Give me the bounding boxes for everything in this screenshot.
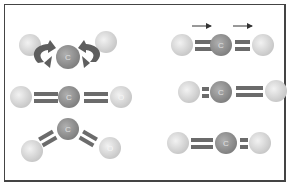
co2-diagram: C C O C O C — [0, 0, 294, 191]
panel-linear-double-bonds: C O — [10, 86, 132, 108]
oxygen-atom-left — [178, 81, 200, 103]
svg-text:C: C — [65, 125, 71, 134]
oxygen-atom-right — [265, 80, 287, 102]
svg-text:O: O — [107, 144, 113, 153]
panel-bent: C O — [21, 118, 121, 162]
oxygen-atom-left — [10, 86, 32, 108]
carbon-label: C — [65, 53, 71, 62]
svg-text:C: C — [66, 93, 72, 102]
oxygen-atom-right — [249, 132, 271, 154]
panel-asymmetric-stretch-1: C — [178, 80, 287, 103]
svg-text:O: O — [118, 93, 124, 102]
svg-text:C: C — [218, 41, 224, 50]
oxygen-atom-left — [167, 132, 189, 154]
svg-text:C: C — [223, 139, 229, 148]
panel-translation: C — [171, 26, 274, 56]
oxygen-atom-right — [252, 34, 274, 56]
panel-asymmetric-stretch-2: C — [167, 132, 271, 154]
oxygen-atom-left — [171, 34, 193, 56]
panel-bending-rotation: C — [19, 31, 117, 69]
svg-text:C: C — [218, 88, 224, 97]
oxygen-atom-left — [21, 140, 43, 162]
